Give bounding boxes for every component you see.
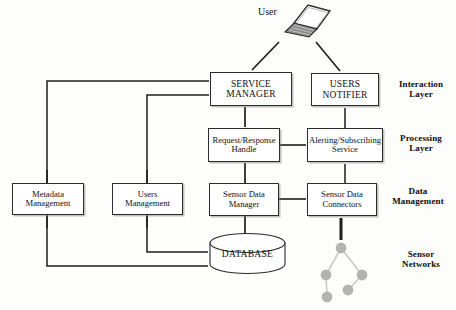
layer-label-interaction-line2: Layer [386, 89, 456, 99]
layer-label-sensor-networks: Sensor Networks [386, 249, 456, 269]
layer-label-processing: Processing Layer [386, 133, 456, 153]
layer-label-interaction-line1: Interaction [386, 79, 456, 89]
sensor-node [343, 285, 354, 296]
node-metadata-management-line2: Management [13, 199, 83, 208]
layer-label-data-management: Data Management [380, 186, 456, 206]
node-metadata-management[interactable]: Metadata Management [12, 183, 84, 215]
user-label: User [258, 6, 277, 17]
laptop-icon [277, 2, 335, 40]
edge-users-management-service-manager [147, 95, 209, 183]
node-service-manager-line2: MANAGER [211, 89, 291, 99]
node-sensor-data-manager-line2: Manager [210, 200, 278, 209]
edge-metadata-management-service-manager [47, 81, 209, 183]
sensor-node [336, 243, 347, 254]
edge-database-users-management [147, 216, 208, 252]
sensor-node [322, 292, 333, 303]
node-users-notifier[interactable]: USERS NOTIFIER [311, 73, 379, 106]
layer-label-interaction: Interaction Layer [386, 79, 456, 99]
layer-label-sensor-networks-line2: Networks [386, 259, 456, 269]
edge-service-manager-user [252, 42, 279, 70]
edge-users-notifier-user [316, 42, 340, 71]
node-alerting-subscribing-service-line2: Service [308, 145, 382, 154]
layer-label-processing-line2: Layer [386, 143, 456, 153]
node-users-notifier-line2: NOTIFIER [312, 90, 378, 100]
edge-database-metadata-management [47, 216, 208, 266]
node-sensor-data-manager[interactable]: Sensor Data Manager [209, 183, 279, 216]
node-alerting-subscribing-service[interactable]: Alerting/Subscribing Service [307, 128, 383, 162]
node-users-notifier-line1: USERS [312, 79, 378, 89]
sensor-node [357, 270, 368, 281]
sensor-node [321, 270, 332, 281]
node-sensor-data-connectors-line2: Connectors [308, 200, 376, 209]
layer-label-data-management-line1: Data [380, 186, 456, 196]
layer-label-processing-line1: Processing [386, 133, 456, 143]
node-sensor-data-connectors[interactable]: Sensor Data Connectors [307, 183, 377, 216]
layer-label-sensor-networks-line1: Sensor [386, 249, 456, 259]
layer-label-data-management-line2: Management [380, 196, 456, 206]
node-users-management[interactable]: Users Management [112, 183, 183, 215]
node-service-manager[interactable]: SERVICE MANAGER [210, 72, 292, 106]
architecture-diagram: User SERVICE MANAGER USERS NOTIFIER Requ… [0, 0, 456, 310]
node-request-response-handle-line2: Handle [209, 145, 279, 154]
node-service-manager-line1: SERVICE [211, 79, 291, 89]
sensor-network-graph [321, 243, 368, 303]
database-label: DATABASE [210, 249, 285, 259]
node-users-management-line2: Management [113, 199, 182, 208]
node-request-response-handle[interactable]: Request/Response Handle [208, 128, 280, 162]
